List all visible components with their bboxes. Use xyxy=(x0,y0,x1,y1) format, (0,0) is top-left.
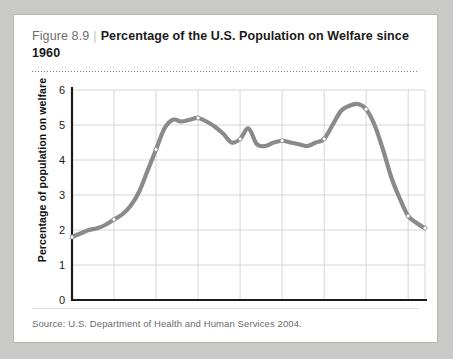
y-tick-label: 2 xyxy=(59,224,65,236)
figure-number: Figure 8.9 xyxy=(32,29,89,43)
y-tick-label: 5 xyxy=(59,119,65,131)
data-point-marker xyxy=(364,107,368,111)
y-tick-label: 3 xyxy=(59,189,65,201)
data-point-marker xyxy=(196,116,200,120)
data-point-marker xyxy=(112,218,116,222)
welfare-line-chart: 0123456196019651970197519801985199019952… xyxy=(14,76,439,304)
header-divider xyxy=(32,71,419,72)
y-tick-label: 4 xyxy=(59,154,65,166)
y-tick-label: 1 xyxy=(59,259,65,271)
data-point-marker xyxy=(322,137,326,141)
y-tick-label: 0 xyxy=(59,294,65,304)
data-point-marker xyxy=(238,137,242,141)
figure-card: Figure 8.9|Percentage of the U.S. Popula… xyxy=(13,14,438,343)
source-note: Source: U.S. Department of Health and Hu… xyxy=(32,318,419,329)
title-separator: | xyxy=(89,29,100,43)
figure-header: Figure 8.9|Percentage of the U.S. Popula… xyxy=(14,15,437,62)
data-point-marker xyxy=(423,226,427,230)
figure-title-line: Figure 8.9|Percentage of the U.S. Popula… xyxy=(32,28,419,62)
footer-divider xyxy=(32,308,419,309)
data-point-marker xyxy=(406,214,410,218)
data-point-marker xyxy=(70,235,74,239)
chart-plot-area: Percentage of population on welfare 0123… xyxy=(14,76,437,304)
y-tick-label: 6 xyxy=(59,84,65,96)
data-point-marker xyxy=(154,148,158,152)
data-line xyxy=(72,104,425,237)
data-point-marker xyxy=(280,139,284,143)
